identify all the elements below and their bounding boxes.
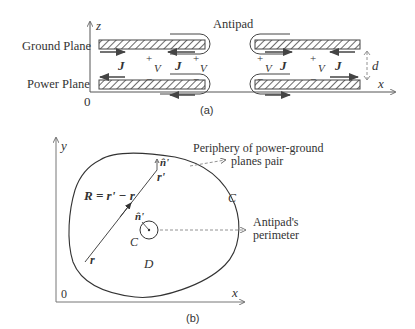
origin-label-a: 0 [84,94,91,109]
antipad-callout-text: Antipad's [253,215,299,229]
r-label: r [90,253,95,267]
antipad-callout-text: perimeter [253,228,299,242]
svg-text:−: − [193,73,199,85]
svg-text:−: − [146,73,152,85]
antipad-label: Antipad [213,17,254,31]
periphery-callout-text: planes pair [231,154,283,168]
figure-b: y x 0 n̂' C R = r' − r r' r n̂' C D Peri… [56,138,323,324]
vector-r-arrow [120,203,131,217]
r-prime-label: r' [157,170,166,184]
svg-text:V: V [154,62,162,74]
current-label-j: J [174,58,182,73]
svg-text:−: − [310,73,316,85]
svg-text:V: V [200,62,208,74]
vector-equation: R = r' − r [83,188,136,203]
current-label-j: J [334,58,342,73]
periphery-callout-text: Periphery of power-ground [193,141,323,155]
svg-text:+: + [193,52,199,64]
ground-plane-left [99,40,205,49]
diagram-canvas: z x 0 Ground Plane Power Plane Antipad J… [0,0,415,329]
spacing-d-indicator: d [364,51,379,80]
axis-x-label-b: x [231,285,238,300]
periphery-contour [69,153,239,297]
current-label-j: J [279,58,287,73]
svg-text:+: + [257,52,263,64]
current-label-j: J [117,58,125,73]
domain-label: D [143,256,154,271]
svg-text:+: + [146,52,152,64]
axis-z-label: z [95,18,101,33]
inner-contour-label: C [130,235,139,249]
caption-b: (b) [186,312,199,324]
caption-a: (a) [200,104,213,116]
origin-label-b: 0 [61,287,67,301]
svg-text:d: d [372,58,379,73]
axis-x-label-a: x [377,76,384,91]
outer-contour-label: C [228,191,237,205]
svg-text:V: V [318,62,326,74]
inner-normal-line [142,222,149,230]
inner-normal-label: n̂' [135,210,144,222]
svg-text:−: − [257,73,263,85]
ground-plane-label: Ground Plane [22,39,92,53]
figure-a: z x 0 Ground Plane Power Plane Antipad J… [22,17,395,116]
svg-text:+: + [310,52,316,64]
power-plane-label: Power Plane [27,77,90,91]
power-plane-right [255,80,360,89]
outer-normal-label: n̂' [160,156,169,168]
axis-y-label: y [59,138,67,153]
ground-plane-right [255,40,360,49]
svg-text:V: V [265,62,273,74]
